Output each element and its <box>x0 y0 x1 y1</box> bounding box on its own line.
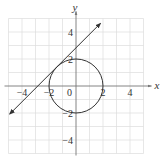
y-tick-label: −4 <box>62 135 73 146</box>
tangent-line <box>10 23 100 113</box>
curves <box>10 23 103 113</box>
y-tick-label: 2 <box>68 54 73 65</box>
x-tick-label: 2 <box>101 87 106 98</box>
chart-svg: x y −4−202442−2−4 <box>0 0 161 164</box>
y-tick-label: −2 <box>62 108 73 119</box>
x-tick-label: 4 <box>128 87 133 98</box>
chart-container: x y −4−202442−2−4 <box>0 0 161 164</box>
x-tick-label: −2 <box>44 87 55 98</box>
x-axis-label: x <box>154 79 160 91</box>
x-tick-label: 0 <box>67 87 72 98</box>
y-axis-label: y <box>72 1 78 13</box>
labels: x y −4−202442−2−4 <box>17 1 160 147</box>
axes <box>5 12 152 156</box>
x-tick-label: −4 <box>17 87 28 98</box>
y-tick-label: 4 <box>68 27 73 38</box>
